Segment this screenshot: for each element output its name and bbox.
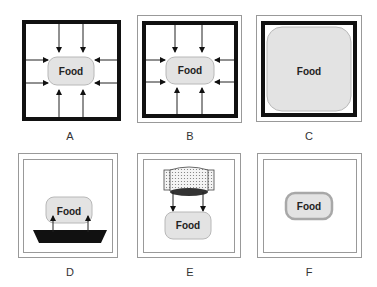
panel-b: Food B [138,16,242,143]
food-label: Food [176,220,200,231]
panel-a: Food A [24,22,119,142]
panel-label: D [66,266,74,278]
panel-c: Food C [257,16,362,143]
panel-label: A [66,130,74,142]
panel-f: Food F [258,154,362,279]
heat-source [33,230,107,243]
panel-label: F [306,266,313,278]
food-label: Food [297,201,321,212]
panel-d: Food D [19,154,118,279]
panel-label: C [305,130,313,142]
panel-label: E [186,266,193,278]
food-label: Food [57,206,81,217]
food-label: Food [59,66,83,77]
panel-e: Food E [138,154,241,279]
food-label: Food [297,66,321,77]
heating-element [164,167,214,196]
food-label: Food [178,65,202,76]
diagram: Food A Food B Food C Food [0,0,377,287]
panel-label: B [186,130,193,142]
